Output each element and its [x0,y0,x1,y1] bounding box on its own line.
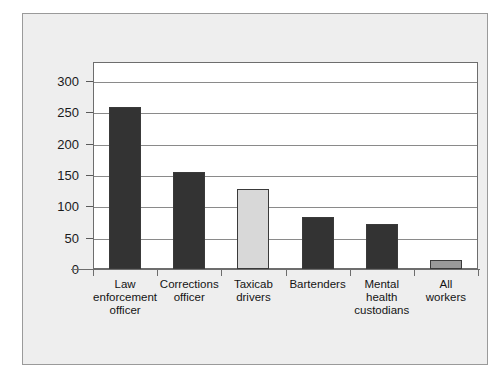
bar-chart-figure: 050100150200250300 Lawenforcementofficer… [0,0,504,378]
y-tick-label: 50 [39,231,79,244]
x-axis-category-label-line: custodians [344,304,420,317]
bar [109,107,141,269]
x-tick-mark [221,270,222,276]
bar [173,172,205,269]
x-axis-category-label-line: officer [87,304,163,317]
x-tick-mark [93,270,94,276]
x-axis-category-label-line: All [408,278,484,291]
y-tick-label: 250 [39,106,79,119]
y-tick-mark [86,206,93,207]
y-tick-label: 300 [39,74,79,87]
x-axis-line [71,269,480,270]
y-tick-mark [86,144,93,145]
x-axis-category-label-line: workers [408,291,484,304]
x-tick-mark [286,270,287,276]
bars-layer [93,62,478,269]
bar [302,217,334,269]
x-tick-mark [414,270,415,276]
y-tick-mark [86,238,93,239]
y-tick-label: 150 [39,168,79,181]
y-tick-label: 100 [39,200,79,213]
y-tick-label: 200 [39,137,79,150]
x-tick-mark [350,270,351,276]
x-axis-category-label: Allworkers [408,278,484,304]
bar [366,224,398,269]
y-tick-mark [86,81,93,82]
bar [430,260,462,269]
chart-panel: 050100150200250300 Lawenforcementofficer… [22,13,488,365]
x-tick-mark [157,270,158,276]
x-tick-mark [478,270,479,276]
bar [237,189,269,269]
x-axis-category-label-line: drivers [215,291,291,304]
y-tick-mark [86,112,93,113]
y-tick-mark [86,175,93,176]
